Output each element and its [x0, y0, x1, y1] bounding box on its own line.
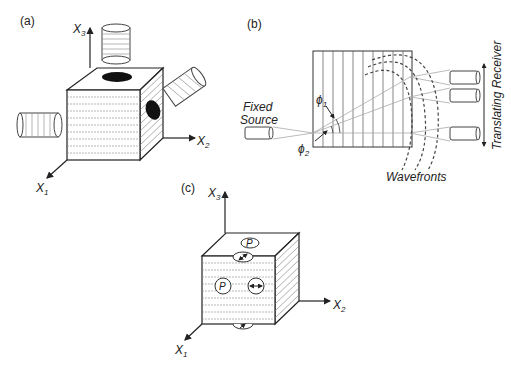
panel-b-label: (b) — [247, 17, 262, 31]
axis-x1 — [47, 160, 67, 178]
angled-transducer — [163, 65, 208, 106]
fixed-source-label-2: Source — [240, 113, 278, 127]
axis-x2-label: X2 — [196, 134, 210, 150]
receiver-1 — [450, 71, 480, 84]
cube-c-front — [202, 256, 275, 324]
receiver-2 — [450, 89, 480, 102]
contact-spot-top — [102, 72, 132, 82]
fixed-source-label-1: Fixed — [243, 100, 273, 114]
fixed-source-transducer — [245, 127, 273, 139]
axis-x1-c-label: X1 — [174, 343, 187, 359]
p-wave-top-label: P — [246, 238, 253, 249]
p-wave-front-label: P — [219, 281, 226, 292]
phi2-label: ϕ2 — [298, 142, 310, 158]
receiver-transducers — [450, 71, 480, 140]
panel-a: (a) X3 — [17, 14, 210, 197]
ultrasonic-measurement-diagram: (a) X3 — [0, 0, 511, 373]
axis-x2-c-label: X2 — [332, 298, 346, 314]
top-transducer — [102, 24, 130, 64]
panel-c: (c) X3 P — [174, 181, 346, 359]
left-transducer — [17, 113, 62, 137]
axis-x3-label: X3 — [72, 22, 86, 38]
panel-c-label: (c) — [181, 181, 195, 195]
shear-marker-bottom — [233, 324, 253, 329]
panel-b: (b) Fixed Source — [240, 17, 504, 184]
wavefronts-label: Wavefronts — [386, 170, 446, 184]
receiver-3 — [450, 127, 480, 140]
cube-a — [67, 68, 163, 160]
translating-receiver-label: Translating Receiver — [490, 40, 504, 150]
panel-a-label: (a) — [20, 14, 35, 28]
cube-c: P P — [202, 233, 299, 329]
axis-x1-c — [185, 324, 202, 340]
axis-x1-label: X1 — [35, 181, 48, 197]
axis-x3-c-label: X3 — [207, 186, 221, 202]
